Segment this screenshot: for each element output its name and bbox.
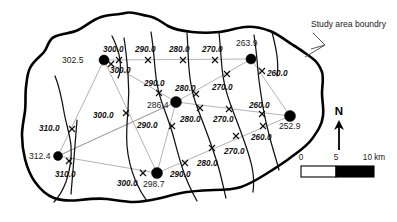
well-point-298-7[interactable] bbox=[152, 168, 163, 179]
contour-label: 270.0 bbox=[223, 147, 245, 156]
study-area-boundary-label: Study area boundry bbox=[311, 19, 387, 29]
contour-label: 280.0 bbox=[196, 159, 218, 168]
contour-label: 290.0 bbox=[134, 45, 156, 54]
well-label-298-7: 298.7 bbox=[143, 179, 165, 189]
scale-bar-segment-5-10 bbox=[336, 166, 374, 177]
well-point-312-4[interactable] bbox=[54, 152, 63, 161]
north-arrow: N bbox=[334, 105, 344, 150]
contour-line-300 bbox=[124, 38, 147, 201]
contour-line-310-left bbox=[54, 76, 71, 202]
contour-label: 270.0 bbox=[201, 45, 223, 54]
contour-label: 260.0 bbox=[266, 69, 288, 78]
scale-tick-label-10: 10 km bbox=[363, 153, 385, 162]
well-label-302-5: 302.5 bbox=[62, 55, 84, 65]
contour-label: 310.0 bbox=[39, 124, 60, 133]
well-point-302-5[interactable] bbox=[99, 55, 109, 65]
contour-label: 300.0 bbox=[110, 66, 131, 75]
contour-label: 280.0 bbox=[179, 115, 201, 124]
contour-label: 290.0 bbox=[136, 121, 158, 130]
contour-label: 280.0 bbox=[174, 84, 196, 93]
contour-label: 310.0 bbox=[55, 170, 76, 179]
contour-label: 280.0 bbox=[168, 45, 190, 54]
well-label-312-4: 312.4 bbox=[29, 151, 51, 161]
contour-label: 270.0 bbox=[212, 115, 234, 124]
contour-label: 260.0 bbox=[250, 133, 272, 142]
contour-label: 300.0 bbox=[117, 179, 138, 188]
contour-label: 300.0 bbox=[93, 111, 114, 120]
contour-lines bbox=[54, 32, 279, 202]
boundary-leader-line bbox=[305, 33, 325, 57]
scale-bar-segment-0-5 bbox=[301, 166, 336, 177]
scale-tick-label-5: 5 bbox=[334, 153, 339, 162]
north-arrow-label: N bbox=[335, 105, 343, 117]
contour-label: 260.0 bbox=[248, 101, 270, 110]
scale-bar: 0 5 10 km bbox=[299, 153, 386, 177]
well-point-286-4[interactable] bbox=[171, 97, 182, 108]
well-label-263-9: 263.9 bbox=[236, 38, 258, 48]
contour-label: 290.0 bbox=[143, 79, 165, 88]
scale-tick-label-0: 0 bbox=[299, 153, 304, 162]
map-canvas: 302.5 263.9 286.4 252.9 312.4 298.7 300.… bbox=[0, 0, 397, 222]
contour-map-figure: 302.5 263.9 286.4 252.9 312.4 298.7 300.… bbox=[0, 0, 397, 222]
well-point-263-9[interactable] bbox=[246, 54, 256, 64]
well-label-252-9: 252.9 bbox=[279, 121, 301, 131]
contour-label: 300.0 bbox=[103, 45, 124, 54]
contour-label: 270.0 bbox=[211, 83, 233, 92]
well-label-286-4: 286.4 bbox=[147, 100, 169, 110]
contour-label: 290.0 bbox=[169, 170, 191, 179]
well-point-252-9[interactable] bbox=[285, 111, 296, 122]
contour-labels: 300.0 290.0 280.0 270.0 300.0 260.0 290.… bbox=[39, 45, 288, 188]
